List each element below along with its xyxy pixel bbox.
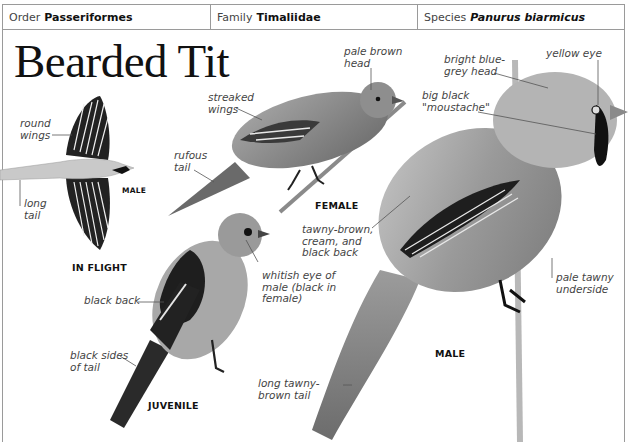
rufous-tail-label: rufous tail — [174, 150, 207, 173]
long-tawny-tail-label: long tawny- brown tail — [258, 378, 319, 401]
in-flight-caption: IN FLIGHT — [72, 262, 127, 273]
black-sides-of-tail-label: black sides of tail — [70, 350, 128, 373]
field-guide-page: Order Passeriformes Family Timaliidae Sp… — [0, 0, 630, 442]
moustache-label: big black "moustache" — [422, 90, 490, 113]
long-tail-label: long tail — [24, 198, 47, 221]
black-back-label: black back — [84, 295, 140, 307]
streaked-wings-label: streaked wings — [208, 92, 254, 115]
back-colors-label: tawny-brown, cream, and black back — [302, 224, 373, 259]
pale-tawny-underside-label: pale tawny underside — [556, 272, 614, 295]
blue-grey-head-label: bright blue- grey head — [444, 54, 505, 77]
pale-brown-head-label: pale brown head — [344, 46, 402, 69]
in-flight-male-caption: MALE — [122, 186, 146, 195]
juvenile-bird — [110, 213, 270, 428]
male-caption: MALE — [435, 348, 465, 359]
female-caption: FEMALE — [315, 200, 359, 211]
juvenile-caption: JUVENILE — [148, 400, 199, 411]
yellow-eye-label: yellow eye — [546, 48, 602, 60]
female-bird — [168, 78, 405, 216]
whitish-eye-label: whitish eye of male (black in female) — [262, 270, 336, 305]
bird-illustrations — [0, 0, 630, 442]
round-wings-label: round wings — [20, 118, 51, 141]
